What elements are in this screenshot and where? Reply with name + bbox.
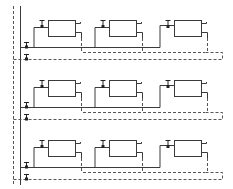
tap-dot	[102, 85, 105, 88]
junction-dot	[25, 178, 28, 181]
tap-dot	[41, 85, 44, 88]
junction-dot	[25, 46, 28, 49]
feed-line	[34, 148, 48, 168]
output-stub	[76, 82, 81, 84]
block-box	[110, 141, 137, 157]
output-stub	[202, 82, 207, 84]
schematic-row	[14, 141, 223, 181]
output-stub	[137, 22, 142, 24]
feed-line	[160, 146, 174, 168]
output-line	[137, 153, 143, 159]
output-line	[76, 153, 82, 159]
output-stub	[202, 22, 207, 24]
feed-line	[160, 26, 174, 48]
feed-line	[95, 88, 109, 108]
block-box	[110, 81, 137, 97]
output-line	[202, 93, 208, 99]
feed-line	[160, 86, 174, 108]
return-dashed-line	[14, 53, 223, 60]
block-box	[175, 141, 202, 157]
tap-dot	[167, 25, 170, 28]
tap-dot	[41, 25, 44, 28]
junction-dot	[25, 58, 28, 61]
junction-dot	[25, 118, 28, 121]
output-line	[76, 33, 82, 39]
tap-dot	[167, 145, 170, 148]
output-line	[202, 153, 208, 159]
feed-line	[95, 148, 109, 168]
output-stub	[76, 142, 81, 144]
schematic-diagram	[0, 0, 233, 189]
output-line	[76, 93, 82, 99]
rows-group	[14, 21, 223, 181]
output-line	[137, 93, 143, 99]
return-dashed-line	[14, 173, 223, 180]
block-box	[110, 21, 137, 37]
block-box	[49, 81, 76, 97]
tap-dot	[102, 25, 105, 28]
tap-dot	[41, 145, 44, 148]
output-stub	[76, 22, 81, 24]
block-box	[49, 21, 76, 37]
feed-line	[34, 88, 48, 108]
output-stub	[137, 82, 142, 84]
junction-dot	[25, 166, 28, 169]
feed-line	[34, 28, 48, 48]
block-box	[175, 21, 202, 37]
schematic-row	[14, 21, 223, 61]
block-box	[49, 141, 76, 157]
output-line	[202, 33, 208, 39]
junction-dot	[25, 106, 28, 109]
diagram-canvas	[0, 0, 233, 189]
return-dashed-line	[14, 113, 223, 120]
output-line	[137, 33, 143, 39]
output-stub	[137, 142, 142, 144]
tap-dot	[102, 145, 105, 148]
block-box	[175, 81, 202, 97]
schematic-row	[14, 81, 223, 121]
tap-dot	[167, 85, 170, 88]
output-stub	[202, 142, 207, 144]
feed-line	[95, 28, 109, 48]
